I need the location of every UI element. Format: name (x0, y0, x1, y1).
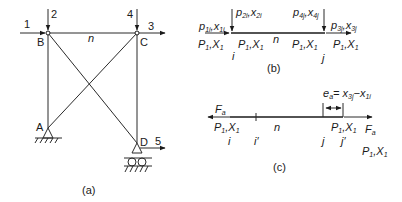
truss-figure-a: 1 2 4 3 5 B C A D n (a) (20, 8, 165, 196)
dof-4-label: 4 (127, 8, 133, 20)
force-2-label: p2i,x2i (235, 6, 262, 19)
force-right-label: Fa (365, 123, 376, 136)
node-a-label: A (36, 121, 44, 133)
member-bd (48, 33, 137, 143)
node-j-prime-label-c: j′ (339, 135, 346, 147)
dof-1-label: 1 (24, 18, 30, 30)
force-4-label: p4j,x4j (292, 6, 319, 20)
node-i-prime-label-c: i′ (254, 135, 259, 147)
node-i-label-c: i (228, 135, 231, 147)
structural-diagram: 1 2 4 3 5 B C A D n (a) p1i,x1i p2i,x2i … (0, 0, 402, 202)
member-n-label-b: n (273, 33, 279, 45)
param-label-4: P1,X1 (333, 38, 359, 51)
param-label-3: P1,X1 (292, 38, 318, 51)
member-n-label: n (88, 32, 94, 44)
node-d-label: D (140, 136, 148, 148)
dof-5-label: 5 (155, 135, 161, 147)
node-i-label-b: i (232, 50, 235, 62)
force-3-label: p3j,x3j (330, 19, 357, 33)
elongation-dimension-icon (323, 103, 343, 117)
param-label-1: P1,X1 (198, 38, 224, 51)
dof-3-label: 3 (148, 20, 154, 32)
member-n-label-c: n (274, 121, 280, 133)
param-label-c-mid: P1,X1 (331, 121, 357, 134)
node-b-label: B (37, 36, 44, 48)
node-j-label-c: j (320, 135, 325, 147)
force-1-label: p1i,x1i (198, 20, 225, 33)
member-figure-c: ea= x3j−x1i Fa Fa P1,X1 P1,X1 P1,X1 n i … (208, 87, 388, 173)
member-ca (48, 33, 137, 128)
force-left-label: Fa (215, 103, 226, 116)
joint-c-icon (135, 31, 139, 35)
param-label-c-right: P1,X1 (362, 145, 388, 158)
joint-b-icon (46, 31, 50, 35)
caption-c: (c) (273, 161, 286, 173)
param-label-c-left: P1,X1 (214, 121, 240, 134)
caption-a: (a) (82, 184, 95, 196)
param-label-2: P1,X1 (238, 38, 264, 51)
node-j-label-b: j (320, 52, 325, 64)
dof-2-label: 2 (51, 8, 57, 20)
elongation-label: ea= x3j−x1i (323, 87, 371, 101)
member-figure-b: p1i,x1i p2i,x2i p4j,x4j p3j,x3j P1,X1 P1… (198, 6, 359, 74)
node-c-label: C (140, 36, 148, 48)
caption-b: (b) (267, 62, 280, 74)
